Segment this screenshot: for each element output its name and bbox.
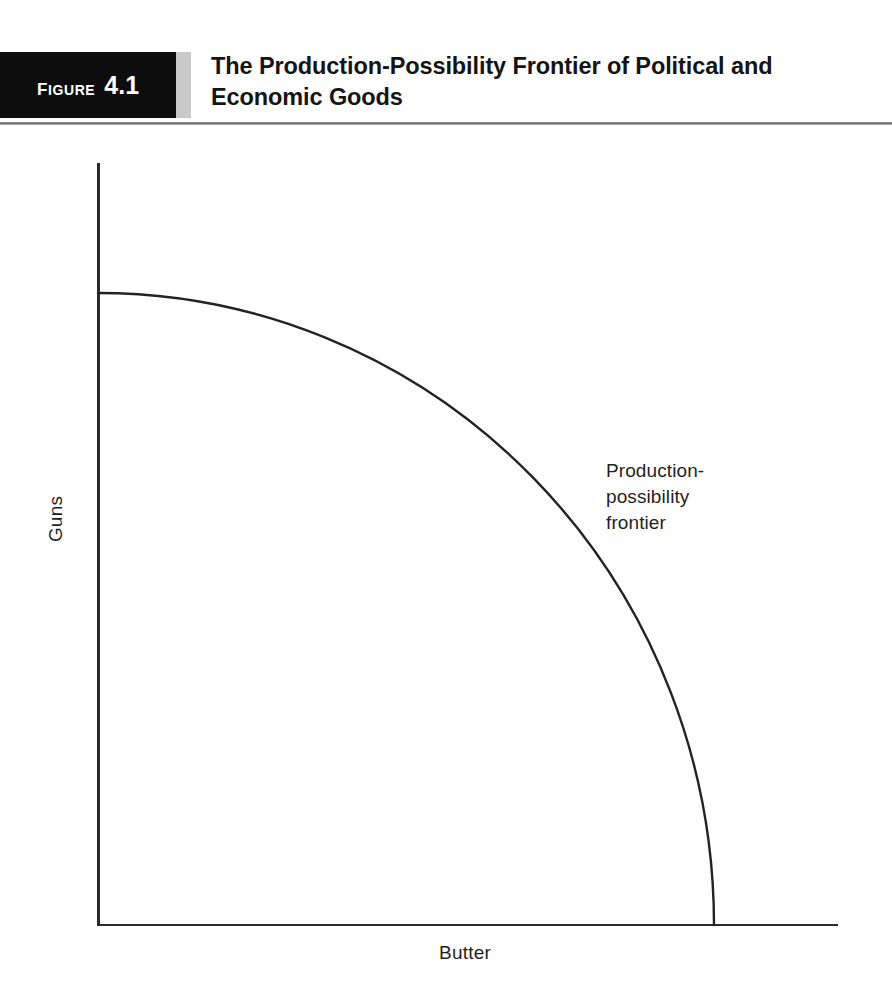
y-axis-label: Guns bbox=[45, 459, 67, 579]
figure-number: 4.1 bbox=[104, 71, 139, 100]
chart-plot-area: Guns Butter Production- possibility fron… bbox=[0, 130, 892, 1007]
frontier-annotation: Production- possibility frontier bbox=[606, 458, 704, 536]
figure-word: Figure bbox=[37, 70, 95, 101]
figure-header: Figure 4.1 The Production-Possibility Fr… bbox=[0, 52, 892, 124]
production-possibility-frontier-curve bbox=[98, 293, 714, 925]
frontier-annotation-line-2: possibility bbox=[606, 484, 704, 510]
x-axis-label: Butter bbox=[405, 942, 525, 964]
figure-badge-label: Figure 4.1 bbox=[0, 52, 176, 118]
frontier-annotation-line-1: Production- bbox=[606, 458, 704, 484]
frontier-annotation-line-3: frontier bbox=[606, 510, 704, 536]
header-divider bbox=[0, 122, 892, 125]
figure-title: The Production-Possibility Frontier of P… bbox=[211, 51, 851, 113]
figure-badge-accent-bar bbox=[176, 52, 191, 118]
ppf-chart-svg bbox=[0, 130, 892, 1007]
